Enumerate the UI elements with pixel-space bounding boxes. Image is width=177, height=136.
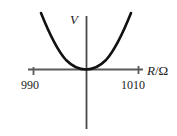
x-tick-label-1010: 1010 <box>121 79 145 91</box>
x-axis-symbol: R <box>147 63 155 78</box>
x-axis-unit: Ω <box>159 63 169 78</box>
x-axis-label: R/Ω <box>147 64 168 77</box>
y-axis-label: V <box>70 13 78 26</box>
x-tick-label-990: 990 <box>21 79 39 91</box>
parabola-chart-figure: V R/Ω 990 1010 <box>0 0 177 136</box>
